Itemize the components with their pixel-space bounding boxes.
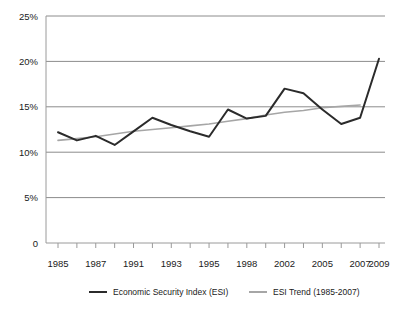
y-axis-tick-labels: 05%10%15%20%25% bbox=[19, 11, 39, 249]
y-tick-label-15pct: 15% bbox=[19, 101, 39, 112]
series-lines-group bbox=[58, 59, 379, 145]
x-tick-label-1998: 1998 bbox=[236, 258, 257, 269]
x-tick-label-1987: 1987 bbox=[85, 258, 106, 269]
x-tick-label-1993: 1993 bbox=[161, 258, 182, 269]
x-axis-ticks-group bbox=[58, 243, 379, 248]
y-tick-label-25pct: 25% bbox=[19, 11, 39, 22]
x-tick-label-2009: 2009 bbox=[368, 258, 389, 269]
chart-container: 05%10%15%20%25% 198519871991199319951998… bbox=[0, 0, 401, 311]
x-tick-label-1991: 1991 bbox=[123, 258, 144, 269]
x-axis-tick-labels: 1985198719911993199519982002200520072009 bbox=[47, 258, 389, 269]
x-tick-label-2002: 2002 bbox=[274, 258, 295, 269]
y-tick-label-0: 0 bbox=[33, 238, 38, 249]
y-tick-label-10pct: 10% bbox=[19, 147, 39, 158]
legend-label-esi: Economic Security Index (ESI) bbox=[113, 287, 228, 297]
legend-label-esi-trend: ESI Trend (1985-2007) bbox=[273, 287, 360, 297]
legend-group: Economic Security Index (ESI)ESI Trend (… bbox=[89, 287, 360, 297]
economic-security-index-line-chart: 05%10%15%20%25% 198519871991199319951998… bbox=[0, 0, 401, 311]
x-tick-label-1985: 1985 bbox=[47, 258, 68, 269]
x-tick-label-2005: 2005 bbox=[312, 258, 333, 269]
series-line-esi bbox=[58, 59, 379, 145]
y-tick-label-5pct: 5% bbox=[24, 192, 38, 203]
x-tick-label-1995: 1995 bbox=[198, 258, 219, 269]
plot-frame-group bbox=[46, 16, 385, 243]
y-tick-label-20pct: 20% bbox=[19, 56, 39, 67]
